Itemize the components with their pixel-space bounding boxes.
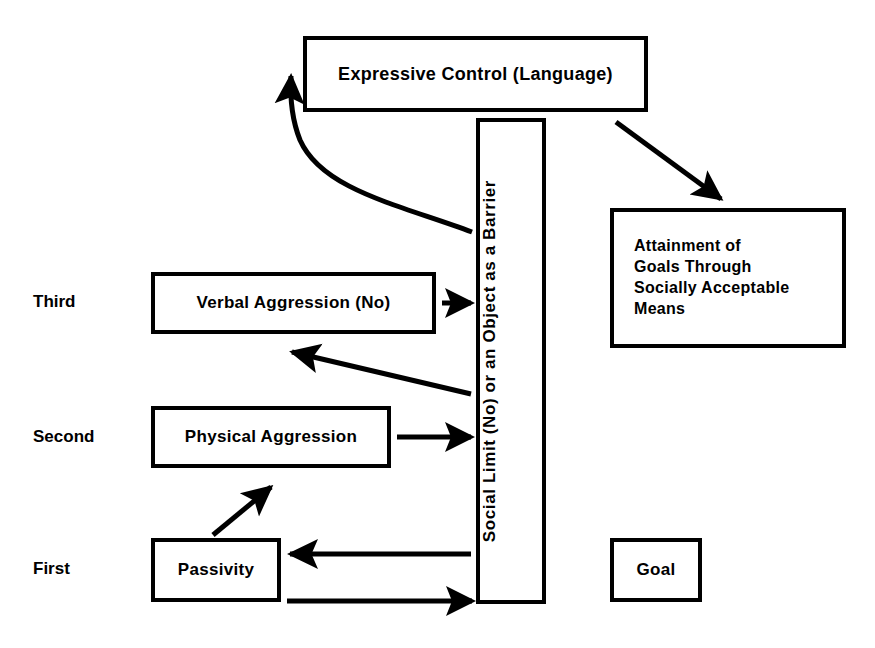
- node-attainment-of-goals: Attainment of Goals Through Socially Acc…: [610, 208, 846, 348]
- node-passivity-label: Passivity: [155, 560, 277, 580]
- stage-label-first: First: [33, 559, 70, 579]
- diagram-canvas: Third Second First Expressive Control (L…: [0, 0, 875, 648]
- attainment-line-2: Goals Through: [634, 258, 752, 275]
- attainment-line-4: Means: [634, 300, 685, 317]
- attainment-line-1: Attainment of: [634, 237, 741, 254]
- attainment-line-3: Socially Acceptable: [634, 279, 789, 296]
- stage-label-second: Second: [33, 427, 94, 447]
- node-social-limit-barrier: Social Limit (No) or an Object as a Barr…: [476, 118, 546, 604]
- node-passivity: Passivity: [151, 538, 281, 602]
- node-social-limit-barrier-label: Social Limit (No) or an Object as a Barr…: [480, 180, 542, 542]
- node-attainment-of-goals-label: Attainment of Goals Through Socially Acc…: [634, 236, 842, 319]
- node-physical-aggression: Physical Aggression: [151, 406, 391, 468]
- node-expressive-control-label: Expressive Control (Language): [307, 64, 644, 85]
- connector-expressive-to-attainment: [616, 122, 721, 199]
- stage-label-third: Third: [33, 292, 76, 312]
- node-goal: Goal: [610, 538, 702, 602]
- connector-passivity-to-physical: [213, 487, 271, 535]
- node-expressive-control: Expressive Control (Language): [303, 36, 648, 112]
- node-verbal-aggression: Verbal Aggression (No): [151, 272, 436, 334]
- connector-barrier-to-verbal: [292, 352, 471, 394]
- node-goal-label: Goal: [614, 560, 698, 580]
- node-physical-aggression-label: Physical Aggression: [155, 427, 387, 447]
- node-verbal-aggression-label: Verbal Aggression (No): [155, 293, 432, 313]
